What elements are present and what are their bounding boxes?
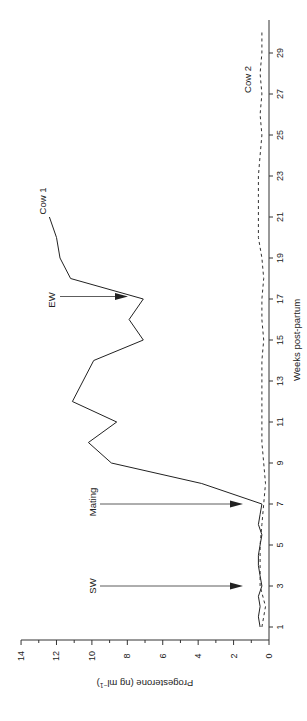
x-tick-label: 27 (275, 89, 285, 99)
y-tick-label: 2 (229, 653, 239, 658)
mating-label: Mating (87, 488, 98, 517)
x-tick-label: 7 (275, 501, 285, 506)
x-tick-label: 5 (275, 542, 285, 547)
sw-arrow-head-icon (230, 583, 243, 590)
x-tick-label: 1 (275, 624, 285, 629)
progesterone-chart: 135791113151719212325272902468101214Week… (0, 0, 307, 721)
x-tick-label: 11 (275, 417, 285, 426)
x-tick-label: 25 (275, 130, 285, 140)
x-tick-label: 23 (275, 171, 285, 181)
y-tick-label: 4 (193, 653, 203, 658)
y-tick-label: 12 (51, 651, 61, 661)
x-axis-title: Weeks post-partum (291, 299, 302, 381)
y-tick-label: 10 (87, 651, 97, 661)
x-tick-label: 17 (275, 294, 285, 304)
x-tick-label: 9 (275, 460, 285, 465)
mating-arrow-head-icon (230, 501, 243, 508)
y-tick-label: 6 (158, 653, 168, 658)
y-tick-label: 0 (264, 653, 274, 658)
y-axis-title: Progesterone (ng ml−1) (97, 678, 194, 689)
x-tick-label: 29 (275, 48, 285, 58)
y-tick-label: 8 (122, 653, 132, 658)
x-tick-label: 21 (275, 212, 285, 222)
sw-label: SW (87, 578, 98, 593)
series-group (49, 33, 265, 628)
x-tick-label: 3 (275, 583, 285, 588)
y-tick-label: 14 (16, 651, 26, 661)
annotations: SWMatingEWCow 1Cow 2 (37, 66, 253, 594)
x-tick-label: 19 (275, 253, 285, 263)
cow-2-line (258, 33, 265, 628)
x-tick-label: 15 (275, 335, 285, 345)
x-tick-label: 13 (275, 376, 285, 386)
ew-label: EW (46, 292, 57, 307)
cow-1-line (49, 217, 262, 627)
cow-2-label: Cow 2 (242, 66, 253, 93)
cow-1-label: Cow 1 (37, 188, 48, 215)
axes: 135791113151719212325272902468101214Week… (16, 20, 302, 689)
